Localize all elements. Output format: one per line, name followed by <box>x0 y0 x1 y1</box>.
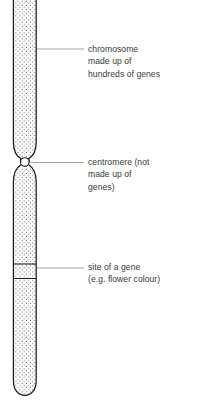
annotation-centromere: centromere (not made up of genes) <box>88 156 149 193</box>
chromosome-upper-arm <box>0 0 60 180</box>
annotation-chromosome-line-3: hundreds of genes <box>88 68 160 80</box>
upper-arm-stipple-fill <box>0 0 60 180</box>
annotation-centromere-line-3: genes) <box>88 181 149 193</box>
annotation-gene-site-line-2: (e.g. flower colour) <box>88 273 160 285</box>
annotation-chromosome: chromosome made up of hundreds of genes <box>88 43 160 80</box>
leader-lines <box>30 49 84 268</box>
chromosome-diagram: chromosome made up of hundreds of genes … <box>0 0 201 412</box>
annotation-centromere-line-2: made up of <box>88 168 149 180</box>
annotation-gene-site-line-1: site of a gene <box>88 261 160 273</box>
chromosome-lower-arm <box>0 160 60 405</box>
centromere-circle <box>21 158 30 167</box>
annotation-gene-site: site of a gene (e.g. flower colour) <box>88 261 160 286</box>
lower-arm-stipple-fill <box>0 160 60 405</box>
annotation-chromosome-line-2: made up of <box>88 55 160 67</box>
annotation-centromere-line-1: centromere (not <box>88 156 149 168</box>
centromere <box>21 158 30 167</box>
annotation-chromosome-line-1: chromosome <box>88 43 160 55</box>
